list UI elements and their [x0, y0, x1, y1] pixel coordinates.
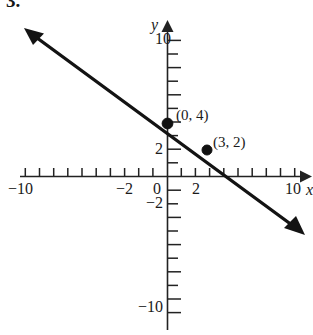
x-tick-label-neg-2: −2 — [116, 180, 133, 198]
point-label-3-2: (3, 2) — [213, 134, 246, 151]
function-line-series — [24, 28, 305, 235]
y-tick-label-2: 2 — [143, 140, 163, 158]
y-axis — [162, 20, 182, 330]
point-label-0-4: (0, 4) — [176, 107, 209, 124]
y-axis-ticks-upper — [168, 40, 182, 162]
coordinate-graph — [0, 0, 313, 335]
y-tick-label-neg-10: −10 — [122, 298, 163, 316]
x-tick-label-10: 10 — [285, 180, 301, 198]
line-arrow-lower-right-icon — [284, 216, 305, 235]
x-tick-label-neg-10: −10 — [8, 180, 33, 198]
x-axis-label: x — [306, 181, 313, 199]
point-marker-0-4 — [162, 118, 173, 129]
figure-root: 3. — [0, 0, 313, 335]
x-axis-ticks-negative — [25, 168, 153, 177]
y-tick-label-10: 10 — [143, 30, 171, 48]
function-line — [31, 34, 296, 229]
x-tick-label-0: 0 — [153, 180, 161, 198]
y-axis-ticks-lower — [168, 190, 182, 312]
x-axis-ticks-positive — [181, 168, 294, 177]
point-marker-3-2 — [202, 145, 212, 155]
x-axis — [20, 168, 312, 183]
x-tick-label-2: 2 — [192, 180, 200, 198]
